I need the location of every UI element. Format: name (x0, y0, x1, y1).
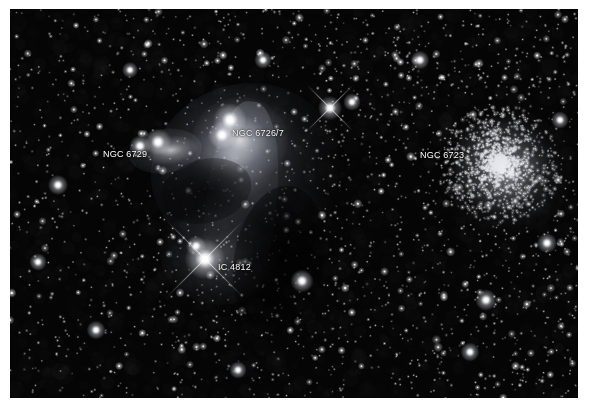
astronomy-photograph: NGC 6729 NGC 6726/7 IC 4812 NGC 6723 (10, 9, 578, 398)
bright-star-overlay (10, 9, 578, 398)
